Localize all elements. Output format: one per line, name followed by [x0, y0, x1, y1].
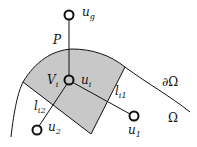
label-P: P — [52, 33, 62, 47]
label-boundary: ∂Ω — [162, 75, 178, 89]
label-li1: li1 — [115, 84, 127, 100]
label-li2: li2 — [34, 99, 46, 115]
label-domain: Ω — [168, 111, 178, 125]
finite-volume-diagram: ug P Vi ui li1 li2 u2 u1 ∂Ω Ω — [0, 0, 197, 147]
node-ug — [65, 11, 74, 20]
node-u2 — [33, 126, 42, 135]
label-u2: u2 — [48, 120, 61, 136]
label-u1: u1 — [128, 123, 141, 139]
node-u1 — [130, 112, 139, 121]
label-ug: ug — [82, 5, 95, 21]
